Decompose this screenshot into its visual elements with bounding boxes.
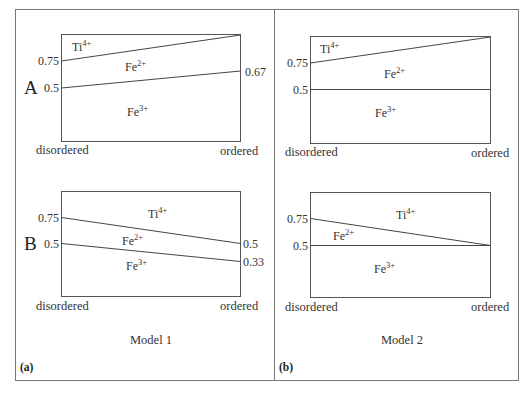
row-label-b: B — [24, 233, 37, 254]
ion-label-ti: Ti4+ — [396, 206, 416, 222]
plot-model1-b: 0.75 0.5 0.5 0.33 Ti4+ Fe2+ Fe3+ disorde… — [36, 192, 264, 314]
boundary-fe2-ti — [62, 218, 241, 244]
plot-box — [62, 35, 241, 142]
ion-label-fe2: Fe2+ — [333, 227, 354, 243]
tick-left-mid: 0.5 — [293, 239, 308, 253]
ion-label-fe2: Fe2+ — [125, 58, 146, 74]
tick-left-mid: 0.5 — [293, 83, 308, 97]
figure: A B 0.75 0.5 0.67 Ti4+ Fe2+ Fe3+ disorde… — [0, 0, 524, 393]
x-label-ordered: ordered — [471, 300, 510, 314]
x-label-disordered: disordered — [285, 145, 339, 159]
ion-label-fe3: Fe3+ — [126, 257, 147, 273]
tick-right-mid: 0.67 — [245, 65, 266, 79]
tick-left-mid: 0.5 — [44, 81, 59, 95]
tick-left-top: 0.75 — [287, 56, 308, 70]
tick-left-top: 0.75 — [38, 211, 59, 225]
ion-label-fe3: Fe3+ — [374, 260, 395, 276]
x-label-disordered: disordered — [36, 299, 90, 313]
ion-label-ti: Ti4+ — [72, 38, 92, 54]
boundary-fe3-fe2 — [62, 71, 241, 88]
ion-label-fe2: Fe2+ — [122, 232, 143, 248]
boundary-fe3-fe2 — [62, 244, 241, 262]
plot-model2-a: 0.75 0.5 Ti4+ Fe2+ Fe3+ disordered order… — [285, 37, 510, 161]
plot-model2-b: 0.75 0.5 Ti4+ Fe2+ Fe3+ disordered order… — [285, 193, 510, 315]
tick-right-top: 0.5 — [243, 237, 258, 251]
tick-left-top: 0.75 — [38, 54, 59, 68]
panel-label-a: (a) — [20, 361, 34, 374]
caption-model-1: Model 1 — [130, 333, 172, 347]
tick-left-mid: 0.5 — [44, 237, 59, 251]
caption-model-2: Model 2 — [381, 333, 423, 347]
tick-left-top: 0.75 — [287, 212, 308, 226]
ion-label-ti: Ti4+ — [320, 40, 340, 56]
ion-label-ti: Ti4+ — [148, 205, 168, 221]
x-label-disordered: disordered — [36, 143, 90, 157]
x-label-ordered: ordered — [471, 146, 510, 160]
plot-model1-a: 0.75 0.5 0.67 Ti4+ Fe2+ Fe3+ disordered … — [36, 35, 266, 159]
outer-frame — [16, 10, 519, 381]
ion-label-fe3: Fe3+ — [127, 103, 148, 119]
row-label-a: A — [24, 77, 38, 98]
tick-right-mid: 0.33 — [243, 255, 264, 269]
x-label-ordered: ordered — [220, 299, 259, 313]
x-label-disordered: disordered — [285, 300, 339, 314]
panel-label-b: (b) — [279, 361, 293, 374]
x-label-ordered: ordered — [220, 144, 259, 158]
ion-label-fe2: Fe2+ — [384, 65, 405, 81]
ion-label-fe3: Fe3+ — [375, 104, 396, 120]
